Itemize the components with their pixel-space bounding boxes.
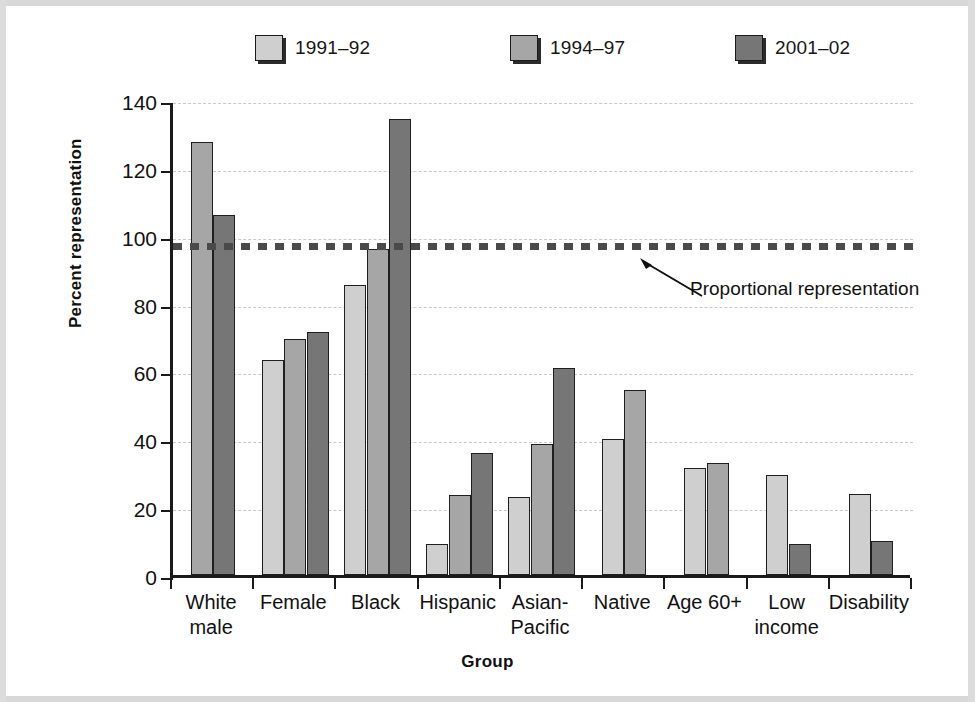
y-axis-tick-mark xyxy=(161,239,173,241)
y-axis-tick-mark xyxy=(161,171,173,173)
bar xyxy=(707,463,729,575)
bar xyxy=(553,368,575,575)
bar-group xyxy=(831,103,913,575)
x-axis-tick-mark xyxy=(581,578,583,589)
x-axis-tick-mark xyxy=(663,578,665,589)
x-axis-tick-mark xyxy=(828,578,830,589)
bar-group xyxy=(420,103,502,575)
y-axis-tick-mark xyxy=(161,442,173,444)
bar-group xyxy=(173,103,255,575)
x-axis-tick-mark xyxy=(417,578,419,589)
legend-label: 1991–92 xyxy=(295,37,370,59)
page-edge-bottom xyxy=(0,696,975,702)
y-axis-tick-label: 80 xyxy=(134,295,157,319)
chart-figure: 1991–921994–972001–02 020406080100120140… xyxy=(0,0,975,702)
x-axis-ticks xyxy=(170,578,913,590)
bar-group xyxy=(749,103,831,575)
y-axis-title-wrap: Percent representation xyxy=(78,103,98,578)
plot-area xyxy=(170,103,910,578)
x-axis-title: Group xyxy=(0,652,975,672)
bar xyxy=(471,453,493,575)
bar xyxy=(344,285,366,575)
y-axis-tick-mark xyxy=(161,103,173,105)
bar xyxy=(389,119,411,575)
bar xyxy=(602,439,624,575)
bar xyxy=(684,468,706,575)
x-axis-tick-mark xyxy=(334,578,336,589)
y-axis-tick-label: 20 xyxy=(134,498,157,522)
y-axis-tick-label: 100 xyxy=(122,227,157,251)
proportional-representation-line xyxy=(173,243,913,250)
x-axis-tick-mark xyxy=(746,578,748,589)
bar xyxy=(871,541,893,575)
legend-swatch-icon xyxy=(510,35,538,61)
bar-group xyxy=(666,103,748,575)
y-axis-tick-mark xyxy=(161,374,173,376)
y-axis-tick-mark xyxy=(161,510,173,512)
legend-swatch-icon xyxy=(735,35,763,61)
bar-group xyxy=(584,103,666,575)
page-edge-right xyxy=(968,0,975,702)
proportional-representation-label: Proportional representation xyxy=(690,278,919,300)
x-axis-tick-mark xyxy=(910,578,912,589)
bar xyxy=(262,360,284,575)
x-axis-tick-labels: WhitemaleFemaleBlackHispanicAsian-Pacifi… xyxy=(170,590,913,648)
chart-legend: 1991–921994–972001–02 xyxy=(255,33,775,65)
y-axis-tick-labels: 020406080100120140 xyxy=(95,103,157,578)
y-axis-tick-label: 40 xyxy=(134,430,157,454)
bar xyxy=(624,390,646,575)
legend-item-3: 2001–02 xyxy=(735,33,850,63)
x-axis-tick-label: Disability xyxy=(816,590,922,615)
bar xyxy=(766,475,788,575)
page-edge-top xyxy=(0,0,975,6)
x-axis-tick-mark xyxy=(252,578,254,589)
bar xyxy=(191,142,213,575)
bar xyxy=(367,249,389,575)
bar xyxy=(449,495,471,575)
y-axis-tick-label: 60 xyxy=(134,362,157,386)
bar xyxy=(284,339,306,575)
bar xyxy=(531,444,553,575)
bar-group xyxy=(502,103,584,575)
y-axis-tick-mark xyxy=(161,307,173,309)
legend-item-1: 1991–92 xyxy=(255,33,370,63)
y-axis-tick-label: 0 xyxy=(145,566,157,590)
bar-group xyxy=(337,103,419,575)
bar xyxy=(849,494,871,575)
bar-group xyxy=(255,103,337,575)
y-axis-tick-label: 140 xyxy=(122,91,157,115)
x-axis-tick-mark xyxy=(499,578,501,589)
legend-item-2: 1994–97 xyxy=(510,33,625,63)
y-axis-tick-label: 120 xyxy=(122,159,157,183)
bar xyxy=(426,544,448,575)
y-axis-title: Percent representation xyxy=(66,138,86,328)
bar xyxy=(789,544,811,575)
legend-swatch-icon xyxy=(255,35,283,61)
bar xyxy=(307,332,329,575)
legend-label: 2001–02 xyxy=(775,37,850,59)
bar xyxy=(213,215,235,575)
page-edge-left xyxy=(0,0,6,702)
x-axis-tick-mark xyxy=(170,578,172,589)
bar xyxy=(508,497,530,575)
legend-label: 1994–97 xyxy=(550,37,625,59)
